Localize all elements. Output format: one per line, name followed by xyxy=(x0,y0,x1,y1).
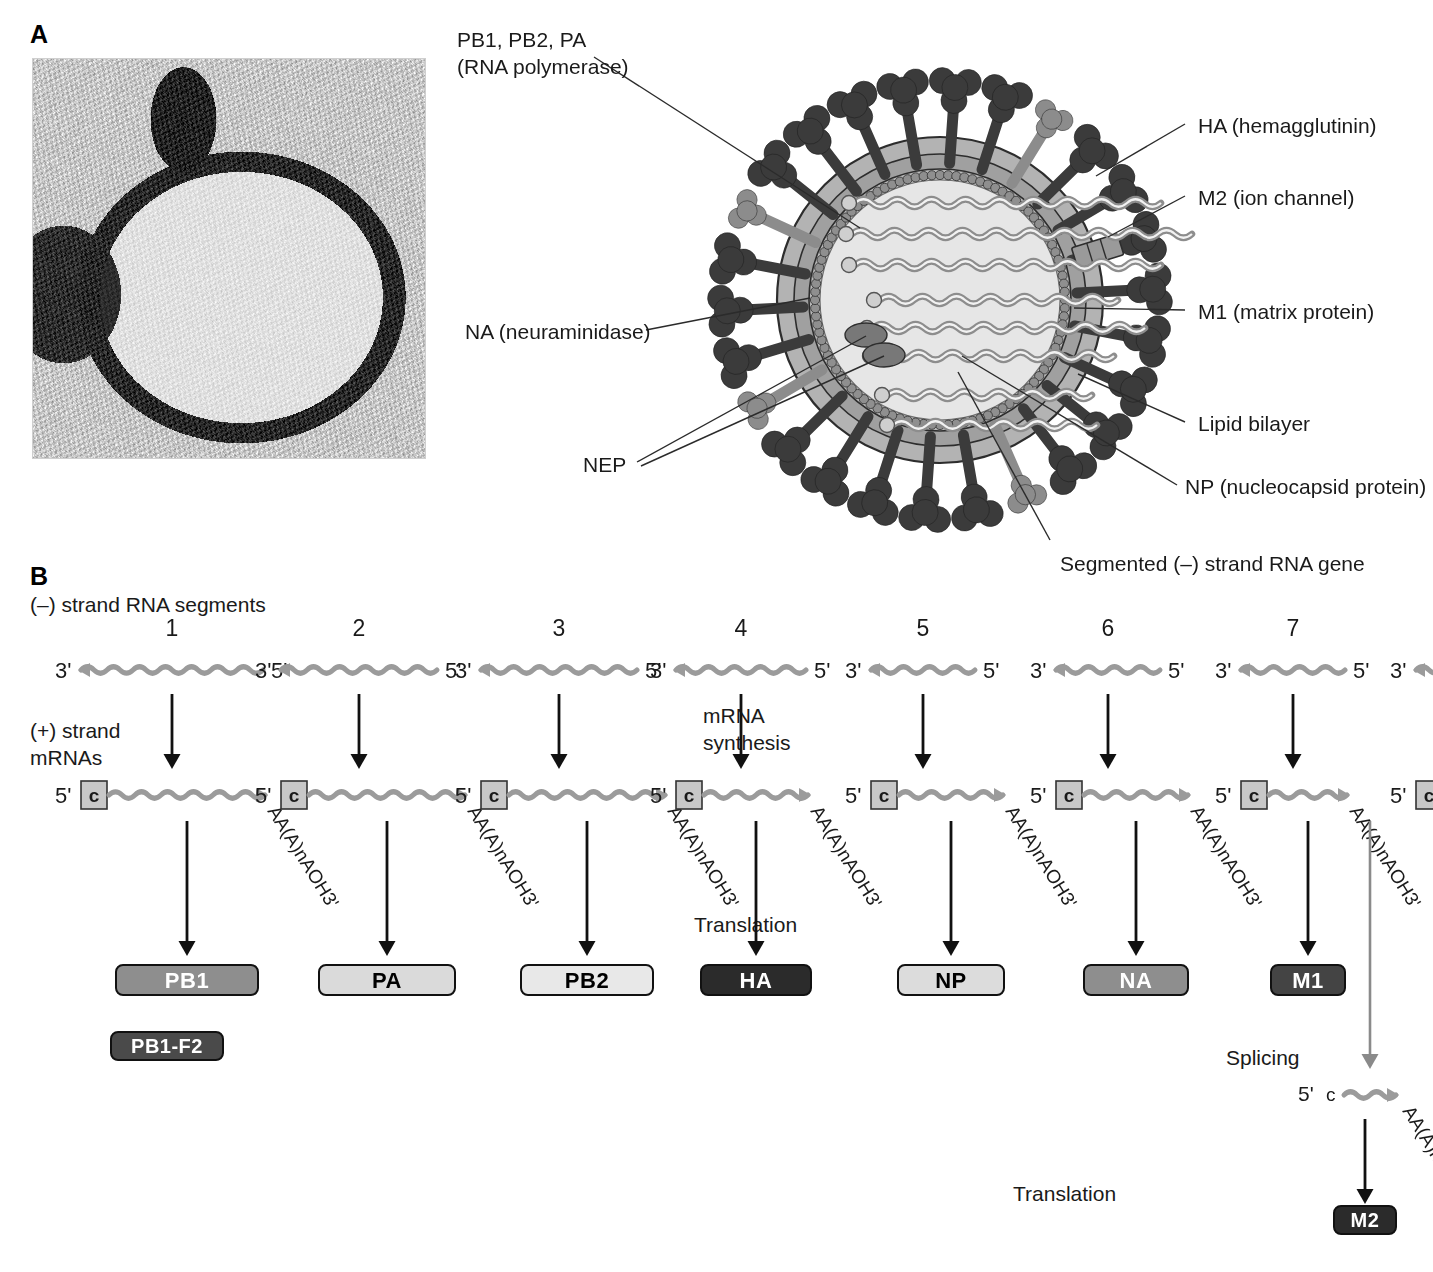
svg-text:2: 2 xyxy=(353,615,366,641)
svg-text:5': 5' xyxy=(1298,1082,1314,1105)
svg-text:5': 5' xyxy=(650,783,666,808)
svg-text:3': 3' xyxy=(255,658,271,683)
svg-text:5': 5' xyxy=(845,783,861,808)
svg-text:3': 3' xyxy=(55,658,71,683)
svg-text:4: 4 xyxy=(735,615,748,641)
protein-box: PB2 xyxy=(521,965,653,995)
svg-text:5: 5 xyxy=(917,615,930,641)
protein-box: M2 xyxy=(1334,1206,1396,1234)
protein-box: NP xyxy=(898,965,1004,995)
svg-text:M2: M2 xyxy=(1351,1209,1380,1231)
label-m2: M2 (ion channel) xyxy=(1198,185,1354,212)
svg-text:AA(A)nAOH3': AA(A)nAOH3' xyxy=(664,802,744,912)
svg-text:AA(A)nAOH3': AA(A)nAOH3' xyxy=(807,802,887,912)
svg-text:AA(A)nAOH3': AA(A)nAOH3' xyxy=(1399,1102,1433,1212)
svg-text:3': 3' xyxy=(1390,658,1406,683)
svg-text:7: 7 xyxy=(1287,615,1300,641)
protein-box: HA xyxy=(701,965,811,995)
svg-text:M1: M1 xyxy=(1292,968,1324,993)
svg-text:c: c xyxy=(1326,1084,1336,1105)
panel-b-diagram: 3'5'15'cAA(A)nAOH3'PB1PB1-F23'5'25'cAA(A… xyxy=(0,560,1433,1272)
svg-text:3': 3' xyxy=(1030,658,1046,683)
svg-text:PA: PA xyxy=(372,968,402,993)
svg-text:3': 3' xyxy=(455,658,471,683)
protein-box: PB1 xyxy=(116,965,258,995)
label-m1: M1 (matrix protein) xyxy=(1198,299,1374,326)
label-na: NA (neuraminidase) xyxy=(465,319,651,346)
svg-text:3: 3 xyxy=(553,615,566,641)
protein-box: NA xyxy=(1084,965,1188,995)
svg-text:AA(A)nAOH3': AA(A)nAOH3' xyxy=(1346,802,1426,912)
svg-text:c: c xyxy=(289,785,300,806)
svg-text:AA(A)nAOH3': AA(A)nAOH3' xyxy=(464,802,544,912)
svg-text:5': 5' xyxy=(1215,783,1231,808)
svg-text:3': 3' xyxy=(1215,658,1231,683)
svg-text:5': 5' xyxy=(1353,658,1369,683)
svg-text:5': 5' xyxy=(55,783,71,808)
svg-text:5': 5' xyxy=(455,783,471,808)
svg-text:c: c xyxy=(489,785,500,806)
label-ha: HA (hemagglutinin) xyxy=(1198,113,1377,140)
svg-text:5': 5' xyxy=(255,783,271,808)
label-lipid-bilayer: Lipid bilayer xyxy=(1198,411,1310,438)
svg-text:1: 1 xyxy=(166,615,179,641)
svg-text:c: c xyxy=(89,785,100,806)
svg-text:c: c xyxy=(879,785,890,806)
label-nep: NEP xyxy=(583,452,626,479)
svg-text:NA: NA xyxy=(1120,968,1153,993)
svg-text:AA(A)nAOH3': AA(A)nAOH3' xyxy=(264,802,344,912)
svg-text:c: c xyxy=(1064,785,1075,806)
svg-text:HA: HA xyxy=(740,968,773,993)
svg-text:3': 3' xyxy=(650,658,666,683)
svg-text:5': 5' xyxy=(1030,783,1046,808)
svg-text:5': 5' xyxy=(1390,783,1406,808)
svg-text:5': 5' xyxy=(814,658,830,683)
svg-text:PB2: PB2 xyxy=(565,968,609,993)
svg-text:5': 5' xyxy=(983,658,999,683)
svg-text:5': 5' xyxy=(1168,658,1184,683)
svg-text:NP: NP xyxy=(935,968,967,993)
protein-box: PB1-F2 xyxy=(111,1032,223,1060)
label-np: NP (nucleocapsid protein) xyxy=(1185,474,1426,501)
svg-text:AA(A)nAOH3': AA(A)nAOH3' xyxy=(1002,802,1082,912)
protein-box: M1 xyxy=(1271,965,1345,995)
svg-text:6: 6 xyxy=(1102,615,1115,641)
svg-text:c: c xyxy=(1249,785,1260,806)
svg-text:c: c xyxy=(1424,785,1433,806)
label-polymerase: PB1, PB2, PA (RNA polymerase) xyxy=(457,27,629,81)
svg-text:PB1: PB1 xyxy=(165,968,209,993)
protein-box: PA xyxy=(319,965,455,995)
svg-text:AA(A)nAOH3': AA(A)nAOH3' xyxy=(1187,802,1267,912)
svg-text:PB1-F2: PB1-F2 xyxy=(131,1035,203,1057)
svg-text:c: c xyxy=(684,785,695,806)
svg-text:3': 3' xyxy=(845,658,861,683)
